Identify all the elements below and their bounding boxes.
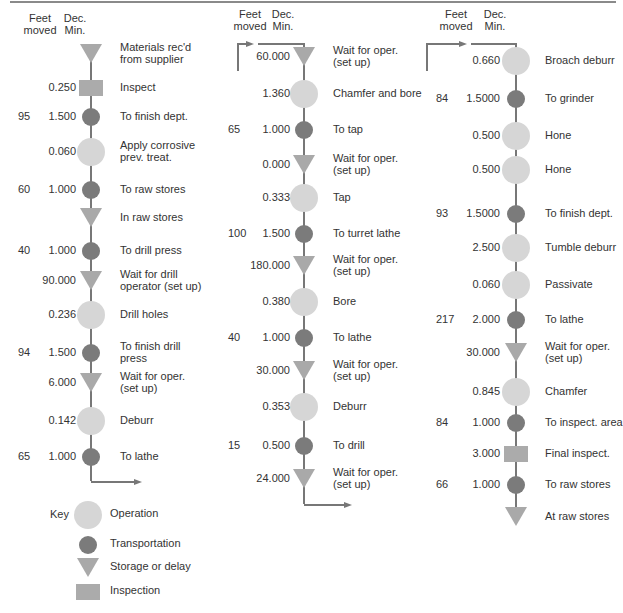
step-label: Apply corrosiveprev. treat.: [120, 140, 195, 163]
dec-min-value: 90.000: [16, 274, 76, 287]
step-label: Wait for drilloperator (set up): [120, 269, 201, 292]
continuation-connector: [91, 481, 134, 483]
transportation-circle-icon: [79, 536, 97, 554]
legend-label-operation: Operation: [110, 507, 158, 519]
transportation-circle-icon: [82, 448, 100, 466]
header-feet-moved: Feetmoved: [438, 8, 474, 32]
step-label: To finish dept.: [545, 208, 613, 220]
operation-circle-icon: [290, 80, 318, 108]
step-label: To lathe: [333, 332, 372, 344]
step-label: Wait for oper.(set up): [333, 45, 398, 68]
storage-triangle-icon: [505, 507, 527, 526]
transportation-circle-icon: [82, 344, 100, 362]
storage-triangle-icon: [293, 47, 315, 66]
transportation-circle-icon: [507, 414, 525, 432]
transportation-circle-icon: [295, 225, 313, 243]
dec-min-value: 6.000: [16, 376, 76, 389]
dec-min-value: 0.000: [230, 158, 290, 171]
arrow-right-icon: [459, 41, 467, 47]
legend-title: Key: [50, 508, 69, 520]
storage-triangle-icon: [293, 256, 315, 275]
dec-min-value: 1.500: [16, 110, 76, 123]
dec-min-value: 0.333: [230, 191, 290, 204]
transportation-circle-icon: [82, 108, 100, 126]
header-dec-min: Dec.Min.: [268, 8, 298, 32]
operation-circle-icon: [290, 288, 318, 316]
dec-min-value: 0.142: [16, 414, 76, 427]
step-label: To drill: [333, 440, 365, 452]
storage-triangle-icon: [505, 343, 527, 362]
step-label: Final inspect.: [545, 448, 610, 460]
dec-min-value: 60.000: [230, 50, 290, 63]
operation-circle-icon: [74, 501, 102, 529]
step-label: Deburr: [333, 401, 367, 413]
dec-min-value: 0.845: [440, 385, 500, 398]
transportation-circle-icon: [295, 329, 313, 347]
dec-min-value: 30.000: [230, 364, 290, 377]
step-label: To inspect. area: [545, 417, 623, 429]
operation-circle-icon: [290, 393, 318, 421]
storage-triangle-icon: [293, 469, 315, 488]
step-label: Hone: [545, 130, 571, 142]
operation-circle-icon: [502, 378, 530, 406]
dec-min-value: 1.000: [16, 183, 76, 196]
step-label: To raw stores: [120, 184, 185, 196]
inspection-square-icon: [76, 584, 100, 600]
storage-triangle-icon: [80, 271, 102, 290]
dec-min-value: 1.000: [230, 123, 290, 136]
step-label: Wait for oper.(set up): [333, 153, 398, 176]
step-label: Passivate: [545, 279, 593, 291]
step-label: Broach deburr: [545, 55, 615, 67]
arrow-right-icon: [134, 479, 142, 485]
operation-circle-icon: [502, 234, 530, 262]
dec-min-value: 0.380: [230, 295, 290, 308]
header-dec-min: Dec.Min.: [480, 8, 510, 32]
arrow-right-icon: [344, 502, 352, 508]
step-label: To finish drillpress: [120, 341, 181, 364]
step-label: Chamfer and bore: [333, 88, 422, 100]
continuation-connector: [471, 43, 516, 45]
transportation-circle-icon: [507, 90, 525, 108]
top-rule: [10, 1, 616, 3]
step-label: In raw stores: [120, 212, 183, 224]
dec-min-value: 0.060: [16, 145, 76, 158]
operation-circle-icon: [77, 138, 105, 166]
dec-min-value: 24.000: [230, 472, 290, 485]
step-label: To tap: [333, 124, 363, 136]
storage-triangle-icon: [80, 373, 102, 392]
dec-min-value: 1.500: [16, 346, 76, 359]
dec-min-value: 0.060: [440, 278, 500, 291]
continuation-connector: [426, 43, 428, 71]
storage-triangle-icon: [293, 361, 315, 380]
step-label: Wait for oper.(set up): [120, 371, 185, 394]
continuation-connector: [304, 504, 344, 506]
operation-circle-icon: [502, 122, 530, 150]
step-label: Materials rec'dfrom supplier: [120, 42, 191, 65]
operation-circle-icon: [502, 47, 530, 75]
dec-min-value: 30.000: [440, 346, 500, 359]
dec-min-value: 1.500: [230, 227, 290, 240]
inspection-square-icon: [504, 446, 528, 462]
dec-min-value: 1.000: [440, 478, 500, 491]
dec-min-value: 0.250: [16, 81, 76, 94]
step-label: To drill press: [120, 245, 182, 257]
dec-min-value: 1.000: [230, 331, 290, 344]
storage-triangle-icon: [80, 208, 102, 227]
operation-circle-icon: [77, 301, 105, 329]
transportation-circle-icon: [507, 311, 525, 329]
step-label: To lathe: [120, 451, 159, 463]
dec-min-value: 2.500: [440, 241, 500, 254]
header-feet-moved: Feetmoved: [22, 12, 58, 36]
transportation-circle-icon: [82, 181, 100, 199]
step-label: Inspect: [120, 82, 155, 94]
legend-label-storage: Storage or delay: [110, 560, 191, 572]
dec-min-value: 1.360: [230, 87, 290, 100]
dec-min-value: 1.000: [16, 244, 76, 257]
step-label: To lathe: [545, 314, 584, 326]
transportation-circle-icon: [295, 437, 313, 455]
operation-circle-icon: [502, 271, 530, 299]
transportation-circle-icon: [507, 205, 525, 223]
operation-circle-icon: [77, 407, 105, 435]
transportation-circle-icon: [295, 121, 313, 139]
dec-min-value: 0.500: [440, 163, 500, 176]
